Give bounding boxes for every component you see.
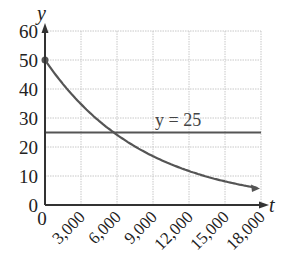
y-tick-label: 20 <box>19 137 38 158</box>
x-tick-label: 6,000 <box>84 207 124 247</box>
x-tick-label: 3,000 <box>48 207 88 247</box>
line-annotation: y = 25 <box>155 110 201 130</box>
grid <box>45 31 261 205</box>
y-tick-label: 40 <box>19 79 38 100</box>
y-tick-label: 50 <box>19 50 38 71</box>
x-tick-label: 0 <box>37 208 47 229</box>
y-tick-label: 10 <box>19 166 38 187</box>
x-tick-labels: 03,0006,0009,00012,00015,00018,000 <box>37 207 269 253</box>
x-tick-label: 12,000 <box>150 207 196 253</box>
y-axis-label: y <box>35 2 46 25</box>
x-axis-label: t <box>269 194 275 216</box>
y-tick-label: 60 <box>19 21 38 42</box>
chart: 0102030405060 03,0006,0009,00012,00015,0… <box>0 0 286 274</box>
x-tick-label: 15,000 <box>186 207 232 253</box>
y-tick-label: 30 <box>19 108 38 129</box>
y-tick-labels: 0102030405060 <box>19 21 38 216</box>
x-tick-label: 18,000 <box>222 207 268 253</box>
decay-curve <box>42 57 261 193</box>
